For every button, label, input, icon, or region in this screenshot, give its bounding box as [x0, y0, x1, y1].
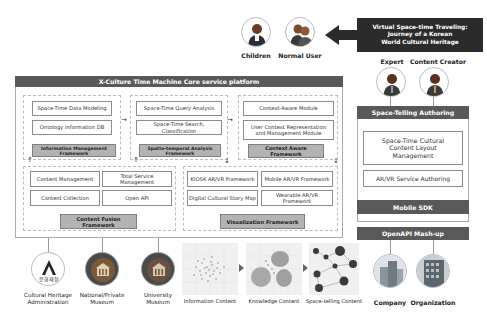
cha-logo: 문화재청: [31, 252, 65, 286]
arvr-service-authoring: AR/VR Service Authoring: [363, 170, 463, 187]
expert-connector: [390, 97, 391, 106]
creator-person-icon: [420, 68, 449, 97]
spatio-temporal-framework: Spatio-temporal Analysis Framework: [139, 144, 221, 157]
mobile-sdk: Mobile SDK: [357, 200, 469, 214]
openapi-mashup: OpenAPI Mash-up: [357, 227, 469, 240]
information-content-graphic: [182, 243, 238, 295]
knowledge-content-graphic: [246, 243, 302, 295]
banner-line-1: Virtual Space-time Traveling:: [372, 24, 467, 31]
organization-connector: [433, 240, 434, 254]
company-building-icon: [374, 255, 407, 288]
expert-avatar: [376, 67, 406, 97]
space-time-data-modeling: Space-Time Data Modeling: [32, 101, 112, 116]
wearable-arvr-framework: Wearable AR/VR Framework: [261, 190, 333, 206]
arrow-right-1: →: [121, 117, 127, 124]
company-image: [373, 254, 407, 288]
university-museum-logo: [141, 252, 175, 286]
ontology-information-db: Ontology Information DB: [32, 120, 112, 135]
user-context-module: User Context Representation and Manageme…: [243, 120, 334, 140]
user-group-icon: [286, 18, 315, 47]
museum-building-icon: [86, 253, 119, 286]
banner-line-2: Journey of a Korean: [388, 31, 453, 38]
expert-person-icon: [377, 68, 406, 97]
children-avatar: [241, 17, 271, 47]
space-telling-content-label: Space-telling Content: [302, 298, 366, 304]
open-api: Open API: [102, 190, 172, 206]
organization-image: [416, 254, 450, 288]
normal-user-avatar: [285, 17, 315, 47]
mobile-arvr-framework: Mobile AR/VR Framework: [261, 171, 333, 187]
knowledge-content-label: Knowledge Content: [242, 298, 306, 304]
museum-building-icon-2: [142, 253, 175, 286]
expert-label: Expert: [372, 58, 412, 65]
information-content-label: Information Content: [178, 298, 242, 304]
layout-management: Space-Time Cultural Content Layout Manag…: [363, 131, 463, 165]
kiosk-arvr-framework: KIOSK AR/VR Framework: [187, 171, 258, 187]
child-person-icon: [242, 18, 271, 47]
organization-label: Organization: [405, 299, 461, 306]
cha-logo-text: 문화재청: [39, 276, 59, 283]
arrow-up-2: ↑: [133, 157, 139, 164]
space-telling-authoring-title: Space-Telling Authoring: [357, 106, 469, 119]
heritage-logo-icon: 문화재청: [32, 253, 65, 286]
arrow-down-1: ↓: [224, 158, 230, 165]
context-aware-module: Context-Aware Module: [243, 101, 334, 116]
visualization-framework: Visualization Framework: [220, 214, 305, 229]
banner-line-3: World Cultural Heritage: [381, 39, 459, 46]
creator-connector: [433, 97, 434, 106]
arrow-up-1: ↑: [27, 157, 33, 164]
organization-building-icon: [417, 255, 450, 288]
content-collection: Content Collection: [30, 190, 100, 206]
arrow-down-2: ↓: [333, 158, 339, 165]
arrow-right-2: →: [227, 117, 233, 124]
journey-banner: Virtual Space-time Traveling: Journey of…: [357, 18, 483, 52]
normal-user-label: Normal User: [272, 52, 328, 59]
platform-title: X-Culture Time Machine Core service plat…: [15, 76, 343, 87]
content-management: Content Management: [30, 171, 100, 187]
context-aware-framework: Context Aware Framework: [248, 144, 324, 158]
national-museum-logo: [85, 252, 119, 286]
stage-arrow-2: [303, 264, 308, 272]
company-connector: [390, 240, 391, 254]
total-service-management: Total Service Management: [102, 171, 172, 187]
digital-cultural-story-map: Digital Cultural Story Map: [187, 190, 258, 206]
national-museum-label: National/Private Museum: [70, 292, 134, 305]
content-creator-avatar: [419, 67, 449, 97]
stage-arrow-1: [239, 264, 244, 272]
info-mgmt-framework: Information Management Framework: [32, 144, 116, 157]
space-time-search-classification: Space-Time Search, Classification: [136, 120, 222, 135]
national-label-1: National/Private: [70, 292, 134, 299]
univ-connector: [158, 238, 159, 252]
national-label-2: Museum: [70, 299, 134, 306]
national-connector: [102, 238, 103, 252]
content-creator-label: Content Creator: [408, 58, 468, 65]
cha-connector: [48, 238, 49, 252]
space-time-query-analysis: Space-Time Query Analysis: [136, 101, 222, 116]
space-telling-content-graphic: [309, 243, 359, 295]
content-fusion-framework: Content Fusion Framework: [60, 214, 137, 229]
